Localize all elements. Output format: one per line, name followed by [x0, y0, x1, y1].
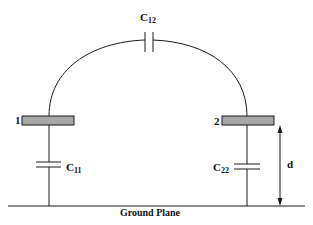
- c22-label: C22: [213, 161, 229, 175]
- capacitor-c11: [36, 162, 61, 167]
- c12-label: C12: [140, 11, 156, 25]
- conductor-1-label: 1: [15, 114, 21, 126]
- dimension-label: d: [287, 158, 293, 170]
- c11-label: C11: [66, 161, 82, 175]
- ground-plane-label: Ground Plane: [120, 207, 181, 218]
- capacitor-c12: [145, 32, 153, 52]
- dimension-arrow-d: [278, 125, 283, 206]
- arc-right: [153, 40, 247, 116]
- conductor-2-label: 2: [214, 115, 220, 127]
- diagram-canvas: 1 2 C12 C11 C22 d Ground Plane: [0, 0, 313, 225]
- capacitor-c22: [234, 164, 260, 169]
- conductor-2-plate: [222, 116, 274, 125]
- arc-left: [49, 40, 145, 116]
- conductor-1-plate: [22, 116, 74, 125]
